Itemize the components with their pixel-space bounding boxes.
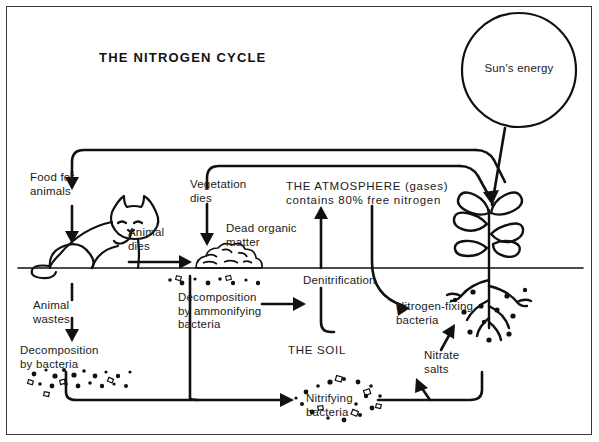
food-for-animals-label: Food for animals — [30, 171, 74, 198]
denitrification-label: Denitrification — [303, 274, 376, 288]
decomposition-ammonifying-label: Decomposition by ammonifying bacteria — [178, 291, 261, 332]
animal-wastes-label: Animal wastes — [33, 299, 70, 326]
bacteria-dots-middle — [168, 275, 260, 285]
nitrate-salts-label: Nitrate salts — [424, 349, 459, 376]
diagram-title: THE NITROGEN CYCLE — [99, 50, 267, 65]
sun-energy-label: Sun's energy — [481, 62, 557, 76]
dead-organic-matter-label: Dead organic matter — [226, 222, 297, 249]
decomposition-by-bacteria-label: Decomposition by bacteria — [20, 344, 99, 371]
the-soil-label: THE SOIL — [288, 344, 346, 358]
atmosphere-line-2: contains 80% free nitrogen — [286, 194, 441, 208]
animal-dies-label: Animal dies — [128, 226, 164, 253]
bacteria-dots-left — [27, 368, 131, 396]
vegetation-dies-label: Vegetation dies — [190, 178, 246, 205]
nitrogen-cycle-diagram: THE NITROGEN CYCLE Sun's energy THE ATMO… — [0, 0, 599, 442]
atmosphere-line-1: THE ATMOSPHERE (gases) — [286, 180, 448, 194]
nitrogen-fixing-bacteria-label: Nitrogen-fixing bacteria — [396, 300, 473, 327]
nitrifying-bacteria-label: Nitrifying bacteria — [306, 392, 353, 419]
